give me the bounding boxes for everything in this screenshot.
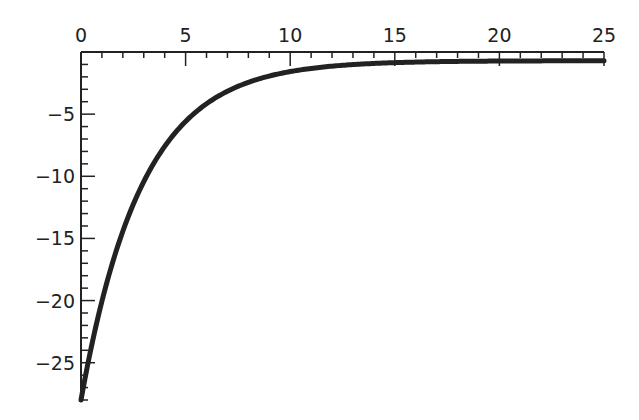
x-tick-label: 20	[487, 24, 511, 46]
x-tick-label: 0	[75, 24, 87, 46]
x-tick-label: 10	[278, 24, 302, 46]
y-tick-label: −15	[35, 227, 75, 249]
data-curve	[81, 61, 604, 400]
x-tick-label: 25	[592, 24, 616, 46]
y-tick-label: −5	[47, 103, 75, 125]
y-tick-label: −10	[35, 165, 75, 187]
axes	[81, 52, 604, 400]
y-axis-tick-labels: −5−10−15−20−25	[35, 103, 75, 374]
x-axis-tick-labels: 0510152025	[75, 24, 616, 46]
x-tick-label: 15	[383, 24, 407, 46]
y-tick-label: −25	[35, 352, 75, 374]
chart-plot: 0510152025 −5−10−15−20−25	[0, 0, 639, 420]
x-tick-label: 5	[180, 24, 192, 46]
y-tick-label: −20	[35, 290, 75, 312]
